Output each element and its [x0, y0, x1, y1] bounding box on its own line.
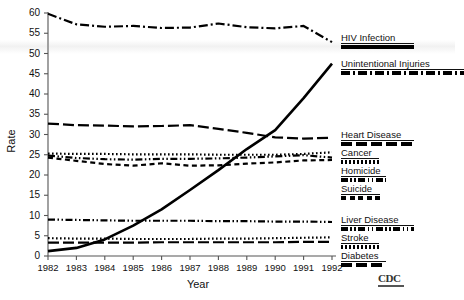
legend-line-swatch: [341, 142, 414, 146]
y-tick-label: 20: [14, 169, 40, 180]
legend-item-label: Heart Disease: [341, 130, 414, 141]
chart-series-group: [48, 14, 332, 251]
legend-item[interactable]: Suicide: [341, 184, 380, 200]
legend-item-label: Liver Disease: [341, 215, 414, 226]
legend-line-swatch: [341, 263, 386, 267]
x-tick-label: 1984: [90, 262, 120, 273]
y-tick-label: 45: [14, 68, 40, 79]
x-tick-label: 1991: [289, 262, 319, 273]
x-tick-label: 1982: [33, 262, 63, 273]
x-tick-label: 1983: [61, 262, 91, 273]
y-tick-label: 5: [14, 230, 40, 241]
legend-item-label: Suicide: [341, 184, 380, 195]
y-tick-label: 0: [14, 250, 40, 261]
cdc-logo: CDC: [378, 272, 404, 287]
legend-item[interactable]: Liver Disease: [341, 215, 414, 231]
x-axis-title: Year: [168, 278, 228, 290]
legend-line-swatch: [341, 227, 414, 231]
legend-item[interactable]: HIV Infection: [341, 33, 414, 49]
series-line: [48, 124, 332, 139]
legend-item-label: Diabetes: [341, 251, 386, 262]
y-tick-label: 30: [14, 129, 40, 140]
legend-item-label: Unintentional Injuries: [341, 59, 464, 70]
y-tick-label: 60: [14, 7, 40, 18]
x-tick-label: 1986: [147, 262, 177, 273]
x-tick-label: 1988: [203, 262, 233, 273]
x-tick-label: 1990: [260, 262, 290, 273]
legend-item-label: HIV Infection: [341, 33, 414, 44]
legend-line-swatch: [341, 245, 379, 249]
legend-line-swatch: [341, 45, 414, 49]
x-tick-label: 1987: [175, 262, 205, 273]
y-tick-label: 10: [14, 210, 40, 221]
y-tick-label: 50: [14, 48, 40, 59]
legend-item[interactable]: Cancer: [341, 148, 379, 164]
x-tick-label: 1985: [118, 262, 148, 273]
legend-line-swatch: [341, 71, 464, 75]
legend-item[interactable]: Unintentional Injuries: [341, 59, 464, 75]
cdc-logo-bar: [378, 285, 404, 287]
legend-item[interactable]: Homicide: [341, 166, 386, 182]
series-line: [48, 237, 332, 239]
legend-item[interactable]: Stroke: [341, 233, 379, 249]
y-tick-label: 40: [14, 88, 40, 99]
legend-line-swatch: [341, 178, 386, 182]
cdc-logo-text: CDC: [378, 272, 400, 284]
series-line: [48, 155, 332, 159]
y-tick-label: 25: [14, 149, 40, 160]
series-line: [48, 14, 332, 42]
series-line: [48, 64, 332, 252]
y-tick-label: 55: [14, 27, 40, 38]
series-line: [48, 152, 332, 154]
legend-item[interactable]: Heart Disease: [341, 130, 414, 146]
legend-item-label: Cancer: [341, 148, 379, 159]
legend-item[interactable]: Diabetes: [341, 251, 386, 267]
y-tick-label: 35: [14, 108, 40, 119]
chart-axes: [44, 12, 336, 260]
series-line: [48, 220, 332, 222]
legend-line-swatch: [341, 196, 380, 200]
legend-line-swatch: [341, 160, 379, 164]
legend-item-label: Homicide: [341, 166, 386, 177]
x-tick-label: 1989: [232, 262, 262, 273]
y-tick-label: 15: [14, 189, 40, 200]
legend-item-label: Stroke: [341, 233, 379, 244]
